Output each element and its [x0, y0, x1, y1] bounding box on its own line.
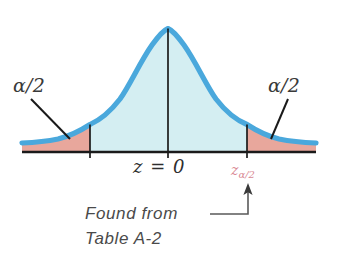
z-equals-zero-label: z = 0	[133, 158, 185, 177]
normal-distribution-diagram: α/2 α/2 z = 0 zα/2 Found from Table A-2	[0, 0, 338, 264]
z-critical-subscript: α/2	[238, 169, 254, 180]
alpha-over-two-label-left: α/2	[13, 76, 45, 96]
right-alpha-leader-line	[271, 99, 288, 139]
caption-line-two: Table A-2	[85, 230, 162, 248]
caption-line-one: Found from	[85, 205, 178, 223]
caption-elbow-connector	[210, 192, 248, 214]
z-critical-value-label: zα/2	[231, 163, 255, 181]
alpha-over-two-label-right: α/2	[268, 76, 300, 96]
distribution-graphic	[0, 0, 338, 264]
left-alpha-leader-line	[31, 99, 70, 139]
